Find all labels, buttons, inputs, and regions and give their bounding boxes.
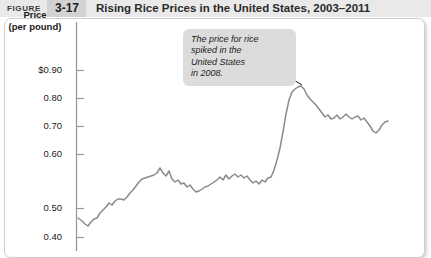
y-axis-ticks bbox=[77, 71, 84, 238]
callout-line-4: in 2008. bbox=[191, 68, 289, 79]
callout-line-2: spiked in the bbox=[191, 45, 289, 56]
callout-annotation: The price for rice spiked in the United … bbox=[183, 29, 296, 86]
callout-line-3: United States bbox=[191, 57, 289, 68]
callout-line-1: The price for rice bbox=[191, 34, 289, 45]
rice-price-line bbox=[78, 86, 388, 226]
